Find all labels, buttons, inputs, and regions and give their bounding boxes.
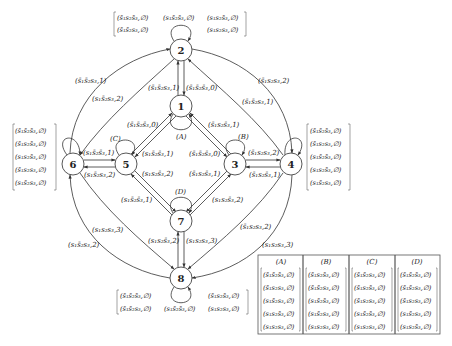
svg-text:(s̄₁s₂s₃,∅): (s̄₁s₂s₃,∅) [310,140,342,148]
svg-text:(s̄₁s₂s̄₃,∅): (s̄₁s₂s̄₃,∅) [117,14,149,22]
svg-text:(s̄₁s₂s̄₃,∅): (s̄₁s₂s̄₃,∅) [354,284,386,292]
edge-7-to-3 [190,174,231,215]
svg-text:(s₁s₂s₃,∅): (s₁s₂s₃,∅) [354,323,386,331]
svg-text:(A): (A) [276,258,287,266]
svg-text:(s₁s₂s̄₃,∅): (s₁s₂s̄₃,∅) [400,323,432,331]
svg-text:(s̄₁s̄₂s̄₃,∅): (s̄₁s̄₂s̄₃,∅) [15,127,47,135]
svg-text:8: 8 [178,273,185,284]
svg-text:(s̄₁s̄₂s̄₃,∅): (s̄₁s̄₂s̄₃,∅) [310,127,342,135]
node-4: 4 [280,153,302,175]
node-5: 5 [115,153,137,175]
svg-text:(s₁s̄₂s₃,∅): (s₁s̄₂s₃,∅) [263,297,295,305]
legend-table: (A) (s̄₁s̄₂s̄₃,∅) (s̄₁s₂s₃,∅) (s₁s̄₂s₃,∅… [258,255,440,334]
svg-text:(B): (B) [321,258,332,266]
edge-label-2-6-inner: (s₁s̄₂s₃,2) [92,95,124,103]
edge-label-7-3: (s̄₁s₂s̄₃,1) [189,170,221,178]
loop-label-B: (B) [238,133,249,141]
svg-text:(s₁s̄₂s̄₃,∅): (s₁s̄₂s̄₃,∅) [164,305,196,313]
svg-text:(s̄₁s₂s̄₃,∅): (s̄₁s₂s̄₃,∅) [308,271,340,279]
edge-label-2-1: (s̄₁s̄₂s̄₃,0) [186,84,218,92]
svg-text:(s̄₁s̄₂s₃,∅): (s̄₁s̄₂s₃,∅) [117,26,149,34]
self-loop-set-node2: (s̄₁s₂s̄₃,∅) (s₁s̄₂s̄₃,∅) (s₁s₂s̄₃,∅) (s… [114,12,246,36]
svg-text:(s̄₁s̄₂s̄₃,∅): (s̄₁s̄₂s̄₃,∅) [263,271,295,279]
node-6: 6 [62,153,84,175]
svg-text:(s₁s̄₂s̄₃,∅): (s₁s̄₂s̄₃,∅) [163,14,195,22]
svg-text:(s₁s₂s̄₃,∅): (s₁s₂s̄₃,∅) [263,310,295,318]
svg-text:(s₁s̄₂s̄₃,∅): (s₁s̄₂s̄₃,∅) [308,297,340,305]
edge-label-4-8-outer: (s₁s₂s₃,3) [262,241,294,249]
svg-text:(s₁s₂s̄₃,∅): (s₁s₂s̄₃,∅) [207,14,239,22]
edge-3-to-1 [190,113,231,154]
loop-label-D: (D) [175,188,186,196]
edge-label-8-7: (s₁s₂s̄₃,2) [148,237,180,245]
svg-text:(s₁s₂s₃,∅): (s₁s₂s₃,∅) [208,305,240,313]
svg-text:2: 2 [178,45,185,56]
edge-label-6-5: (s₁s̄₂s̄₃,1) [83,149,115,157]
loop-label-C: (C) [110,135,121,143]
svg-text:(s₁s₂s₃,∅): (s₁s₂s₃,∅) [207,26,239,34]
svg-text:(D): (D) [411,258,422,266]
edge-label-1-3: (s̄₁s₂s̄₃,1) [208,121,240,129]
svg-text:(s̄₁s̄₂s̄₃,∅): (s̄₁s̄₂s̄₃,∅) [120,292,152,300]
svg-text:(s̄₁s₂s̄₃,∅): (s̄₁s₂s̄₃,∅) [15,140,47,148]
svg-text:3: 3 [232,159,239,170]
self-loop-set-node4: (s̄₁s̄₂s̄₃,∅) (s̄₁s₂s₃,∅) (s₁s̄₂s̄₃,∅) (… [307,124,350,190]
node-7: 7 [170,210,192,232]
svg-text:6: 6 [70,159,77,170]
svg-text:(s₁s₂s₃,∅): (s₁s₂s₃,∅) [263,323,295,331]
svg-text:(s₁s₂s₃,∅): (s₁s₂s₃,∅) [308,323,340,331]
svg-text:(s₁s₂s̄₃,∅): (s₁s₂s̄₃,∅) [15,153,47,161]
self-loop-set-node8: (s̄₁s̄₂s̄₃,∅) (s̄₁s₂s̄₃,∅) (s̄₁s̄₂s₃,∅) … [117,290,248,314]
edge-5-to-1 [131,113,172,154]
svg-text:(s̄₁s̄₂s₃,∅): (s̄₁s̄₂s₃,∅) [354,271,386,279]
svg-text:(s₁s̄₂s̄₃,∅): (s₁s̄₂s̄₃,∅) [310,153,342,161]
svg-text:(s̄₁s₂s₃,∅): (s̄₁s₂s₃,∅) [400,297,432,305]
edge-4-to-2-inner [188,59,283,155]
edge-label-4-2-outer: (s̄₁s₂s₃,2) [258,77,290,85]
self-loop-set-node6: (s̄₁s̄₂s̄₃,∅) (s̄₁s₂s̄₃,∅) (s₁s₂s̄₃,∅) (… [13,124,56,190]
edge-label-1-5: (s₁s̄₂s̄₃,1) [142,150,174,158]
svg-text:(s̄₁s₂s₃,∅): (s̄₁s₂s₃,∅) [354,297,386,305]
edge-label-1-2: (s̄₁s̄₂s₃,1) [148,84,180,92]
edge-label-4-8-inner: (s̄₁s₂s₃,2) [240,223,272,231]
svg-text:(s₁s̄₂s̄₃,∅): (s₁s̄₂s̄₃,∅) [354,310,386,318]
svg-text:(s₁s̄₂s₃,∅): (s₁s̄₂s₃,∅) [308,310,340,318]
svg-text:7: 7 [178,216,185,227]
edge-7-to-5 [131,174,172,215]
edge-label-6-2-outer: (s̄₁s̄₂s₃,1) [75,77,107,85]
edge-label-8-6-outer: (s₁s̄₂s₃,2) [68,241,100,249]
edge-label-5-1: (s̄₁s̄₂s̄₃,0) [127,121,159,129]
self-loop-4 [285,138,302,155]
svg-text:(s̄₁s̄₂s₃,∅): (s̄₁s̄₂s₃,∅) [120,305,152,313]
state-transition-diagram: 1 2 3 4 5 6 7 8 (A) (B) (C) (D) (s̄₁s̄₂s… [0,0,452,346]
svg-text:(s₁s̄₂s₃,∅): (s₁s̄₂s₃,∅) [400,310,432,318]
svg-text:(s₁s₂s̄₃,∅): (s₁s₂s̄₃,∅) [310,166,342,174]
edge-label-4-3: (s̄₁s₂s̄₃,1) [249,171,281,179]
svg-text:1: 1 [178,101,185,112]
svg-text:(s̄₁s₂s₃,∅): (s̄₁s₂s₃,∅) [15,166,47,174]
edge-label-2-4-inner: (s̄₁s̄₂s₃,1) [242,98,274,106]
edge-label-7-5: (s₁s̄₂s̄₃,1) [121,196,153,204]
svg-text:(s₁s̄₂s₃,∅): (s₁s̄₂s₃,∅) [310,179,342,187]
node-1: 1 [170,95,192,117]
edge-label-3-7: (s₁s₂s̄₃,2) [212,196,244,204]
node-2: 2 [170,39,192,61]
svg-text:(C): (C) [367,258,378,266]
node-8: 8 [170,267,192,289]
svg-text:(s̄₁s̄₂s₃,∅): (s̄₁s̄₂s₃,∅) [400,284,432,292]
edge-label-6-8-inner: (s₁s₂s₃,3) [92,226,124,234]
node-3: 3 [224,153,246,175]
edge-6-to-8-inner [80,173,174,269]
edge-label-3-4: (s̄₁s₂s₃,2) [248,149,280,157]
loop-label-A: (A) [176,133,187,141]
edge-label-3-1: (s̄₁s̄₂s̄₃,0) [189,150,221,158]
edge-2-to-6-inner [80,59,174,155]
svg-text:(s̄₁s₂s̄₃,∅): (s̄₁s₂s̄₃,∅) [208,292,240,300]
svg-text:(s̄₁s̄₂s̄₃,∅): (s̄₁s̄₂s̄₃,∅) [400,271,432,279]
edge-label-7-8: (s₁s₂s₃,3) [186,237,218,245]
svg-text:(s₁s̄₂s₃,∅): (s₁s̄₂s₃,∅) [15,179,47,187]
edge-label-5-7: (s₁s₂s̄₃,2) [142,170,174,178]
svg-text:5: 5 [123,159,130,170]
svg-text:4: 4 [288,159,295,170]
svg-text:(s̄₁s̄₂s₃,∅): (s̄₁s̄₂s₃,∅) [308,284,340,292]
